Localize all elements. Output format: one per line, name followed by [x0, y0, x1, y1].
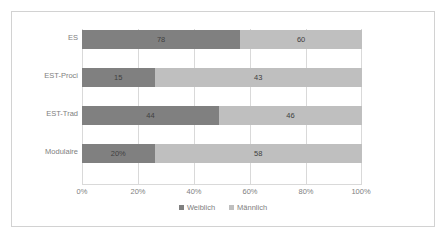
y-axis-label-2: EST-Trad: [14, 110, 78, 118]
bar-value-weiblich-modulaire: 20%: [111, 150, 126, 158]
plot-area: 78 60 15 43 44 46 20%: [82, 29, 362, 184]
bar-value-weiblich-es: 78: [157, 36, 165, 44]
bar-segment-maennlich-est-proci[interactable]: 43: [155, 68, 362, 87]
y-axis-label-1: EST-Proci: [14, 72, 78, 80]
bar-segment-maennlich-modulaire[interactable]: 58: [155, 144, 362, 163]
bar-value-maennlich-modulaire: 58: [254, 150, 262, 158]
x-axis-tick-40: 40%: [186, 188, 201, 196]
x-axis-tick-labels: 0% 20% 40% 60% 80% 100%: [82, 188, 362, 200]
bar-value-weiblich-est-proci: 15: [114, 74, 122, 82]
bar-segment-weiblich-es[interactable]: 78: [82, 30, 240, 49]
bar-row-modulaire[interactable]: 20% 58: [82, 144, 362, 163]
bar-segment-weiblich-est-proci[interactable]: 15: [82, 68, 155, 87]
bar-segment-weiblich-est-trad[interactable]: 44: [82, 106, 219, 125]
x-axis-tick-80: 80%: [298, 188, 313, 196]
legend-item-maennlich[interactable]: Männlich: [229, 204, 267, 212]
legend-swatch-maennlich-icon: [229, 205, 234, 210]
x-axis-tick-100: 100%: [351, 188, 370, 196]
bar-row-es[interactable]: 78 60: [82, 30, 362, 49]
legend-item-weiblich[interactable]: Weiblich: [179, 204, 215, 212]
y-axis-category-labels: ES EST-Proci EST-Trad Modulaire: [12, 29, 78, 184]
bar-segment-maennlich-es[interactable]: 60: [240, 30, 362, 49]
bar-segment-weiblich-modulaire[interactable]: 20%: [82, 144, 155, 163]
bar-value-maennlich-es: 60: [297, 36, 305, 44]
bar-row-est-proci[interactable]: 15 43: [82, 68, 362, 87]
legend-label-weiblich: Weiblich: [187, 204, 215, 212]
bar-value-maennlich-est-trad: 46: [286, 112, 294, 120]
bar-value-weiblich-est-trad: 44: [146, 112, 154, 120]
chart-container: ES EST-Proci EST-Trad Modulaire 78 60 15…: [11, 11, 435, 227]
bar-row-est-trad[interactable]: 44 46: [82, 106, 362, 125]
chart-legend: Weiblich Männlich: [12, 204, 434, 212]
x-axis-line: [82, 184, 362, 185]
legend-label-maennlich: Männlich: [237, 204, 267, 212]
bar-segment-maennlich-est-trad[interactable]: 46: [219, 106, 362, 125]
legend-swatch-weiblich-icon: [179, 205, 184, 210]
y-axis-label-0: ES: [14, 34, 78, 42]
x-axis-tick-20: 20%: [130, 188, 145, 196]
x-axis-tick-0: 0%: [77, 188, 88, 196]
bar-value-maennlich-est-proci: 43: [254, 74, 262, 82]
x-axis-tick-60: 60%: [242, 188, 257, 196]
y-axis-label-3: Modulaire: [14, 148, 78, 156]
